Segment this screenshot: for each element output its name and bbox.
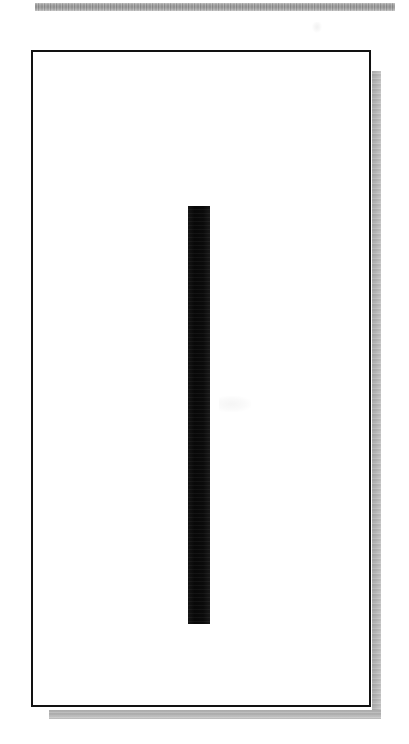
scan-speck-top-right-icon <box>312 22 322 33</box>
panel-drop-shadow-bottom <box>49 710 381 719</box>
scanned-page <box>0 0 409 744</box>
bordered-figure-frame <box>31 50 371 707</box>
panel-drop-shadow-right <box>372 71 381 719</box>
scan-speck-mid-right-icon <box>219 396 251 412</box>
vertical-black-bar <box>188 206 210 624</box>
horizontal-rule <box>35 3 395 11</box>
